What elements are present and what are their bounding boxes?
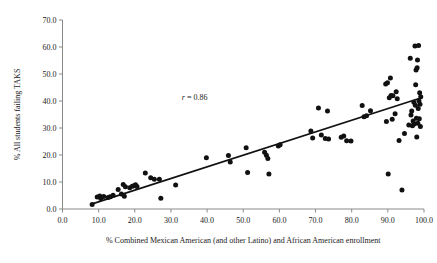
regression-line: [91, 98, 421, 204]
y-tick-label: 30.0: [43, 124, 57, 133]
data-point: [364, 113, 369, 118]
chart-canvas: 0.010.020.030.040.050.060.070.080.090.01…: [0, 0, 437, 263]
data-point: [393, 111, 398, 116]
y-tick-label: 50.0: [43, 70, 57, 79]
y-tick-label: 20.0: [43, 151, 57, 160]
data-point: [368, 108, 373, 113]
x-axis-title: % Combined Mexican American (and other L…: [106, 236, 381, 245]
y-tick-label: 60.0: [43, 43, 57, 52]
data-point: [415, 57, 420, 62]
data-point: [244, 145, 249, 150]
data-point: [417, 116, 422, 121]
data-point: [325, 108, 330, 113]
y-tick-label: 70.0: [43, 16, 57, 25]
data-point: [348, 138, 353, 143]
data-point: [399, 188, 404, 193]
x-tick-label: 20.0: [128, 216, 142, 225]
data-point: [265, 156, 270, 161]
data-point: [386, 171, 391, 176]
data-points-group: [90, 43, 424, 207]
data-point: [266, 171, 271, 176]
data-point: [418, 102, 423, 107]
x-tick-label: 40.0: [200, 216, 214, 225]
data-point: [245, 170, 250, 175]
data-point: [157, 177, 162, 182]
data-point: [308, 128, 313, 133]
data-point: [316, 106, 321, 111]
data-point: [173, 182, 178, 187]
correlation-value: 0.86: [193, 93, 207, 102]
data-point: [418, 94, 423, 99]
data-point: [123, 184, 128, 189]
data-point: [395, 96, 400, 101]
data-point: [388, 76, 393, 81]
x-tick-label: 0.0: [58, 216, 68, 225]
data-point: [413, 82, 418, 87]
y-tick-label: 0.0: [47, 205, 57, 214]
y-axis-ticks: 0.010.020.030.040.050.060.070.0: [43, 16, 63, 214]
x-tick-label: 60.0: [272, 216, 286, 225]
data-point: [278, 142, 283, 147]
data-point: [319, 133, 324, 138]
data-point: [90, 202, 95, 207]
data-point: [116, 187, 121, 192]
data-point: [409, 108, 414, 113]
x-tick-label: 70.0: [309, 216, 323, 225]
x-tick-label: 10.0: [92, 216, 106, 225]
data-point: [101, 194, 106, 199]
data-point: [390, 93, 395, 98]
data-point: [397, 138, 402, 143]
y-tick-label: 10.0: [43, 178, 57, 187]
data-point: [402, 131, 407, 136]
data-point: [143, 171, 148, 176]
data-point: [228, 160, 233, 165]
x-tick-label: 100.0: [415, 216, 433, 225]
y-tick-label: 40.0: [43, 97, 57, 106]
x-tick-label: 50.0: [236, 216, 250, 225]
x-axis-ticks: 0.010.020.030.040.050.060.070.080.090.01…: [58, 209, 434, 225]
x-tick-label: 30.0: [164, 216, 178, 225]
data-point: [394, 89, 399, 94]
data-point: [384, 119, 389, 124]
data-point: [408, 56, 413, 61]
data-point: [122, 194, 127, 199]
data-point: [416, 106, 421, 111]
data-point: [310, 135, 315, 140]
data-point: [152, 177, 157, 182]
x-tick-label: 80.0: [345, 216, 359, 225]
data-point: [416, 43, 421, 48]
data-point: [134, 184, 139, 189]
data-point: [226, 153, 231, 158]
data-point: [204, 155, 209, 160]
data-point: [415, 65, 420, 70]
data-point: [341, 134, 346, 139]
chart-annotations: r = 0.86: [182, 93, 208, 102]
x-tick-label: 90.0: [381, 216, 395, 225]
data-point: [360, 103, 365, 108]
data-point: [385, 80, 390, 85]
y-axis-title: % All students failing TAKS: [13, 69, 22, 161]
data-point: [326, 137, 331, 142]
correlation-equals: =: [185, 93, 194, 102]
data-point: [418, 124, 423, 129]
data-point: [344, 138, 349, 143]
trendline-segment: [91, 98, 421, 204]
data-point: [111, 193, 116, 198]
data-point: [158, 196, 163, 201]
correlation-annotation: r = 0.86: [182, 93, 208, 102]
scatter-plot-figure: 0.010.020.030.040.050.060.070.080.090.01…: [0, 0, 437, 263]
data-point: [414, 134, 419, 139]
data-point: [390, 117, 395, 122]
